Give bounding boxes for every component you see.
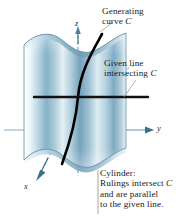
label-given-line-line2: intersecting C (104, 68, 157, 78)
label-cylinder-caption: Cylinder: Rulings intersect C and are pa… (100, 168, 172, 210)
label-cylinder-line2-italic: C (166, 178, 172, 188)
label-given-line: Given line intersecting C (104, 58, 157, 79)
x-axis-arrowhead (36, 170, 46, 181)
label-cylinder-line1: Cylinder: (100, 168, 172, 178)
label-cylinder-line4: to the given line. (100, 199, 172, 209)
axis-label-y: y (157, 124, 161, 133)
axis-label-z: z (75, 19, 78, 28)
label-given-line-line2-italic: C (150, 68, 156, 78)
label-given-line-line2-prefix: intersecting (104, 68, 150, 78)
label-given-line-line1: Given line (104, 58, 157, 68)
label-generating-curve-line1: Generating (102, 6, 144, 16)
label-generating-curve-line2: curve C (102, 16, 144, 26)
y-axis-arrowhead (145, 127, 154, 134)
axis-label-x: x (24, 182, 28, 191)
label-cylinder-line2: Rulings intersect C (100, 178, 172, 188)
label-generating-curve-line2-prefix: curve (102, 16, 125, 26)
label-generating-curve-line2-italic: C (125, 16, 131, 26)
cylinder-surface (20, 28, 132, 174)
label-generating-curve: Generating curve C (102, 6, 144, 27)
cylinder-diagram: Generating curve C Given line intersecti… (0, 0, 183, 218)
label-cylinder-line3: and are parallel (100, 189, 172, 199)
label-cylinder-line2-prefix: Rulings intersect (100, 178, 166, 188)
